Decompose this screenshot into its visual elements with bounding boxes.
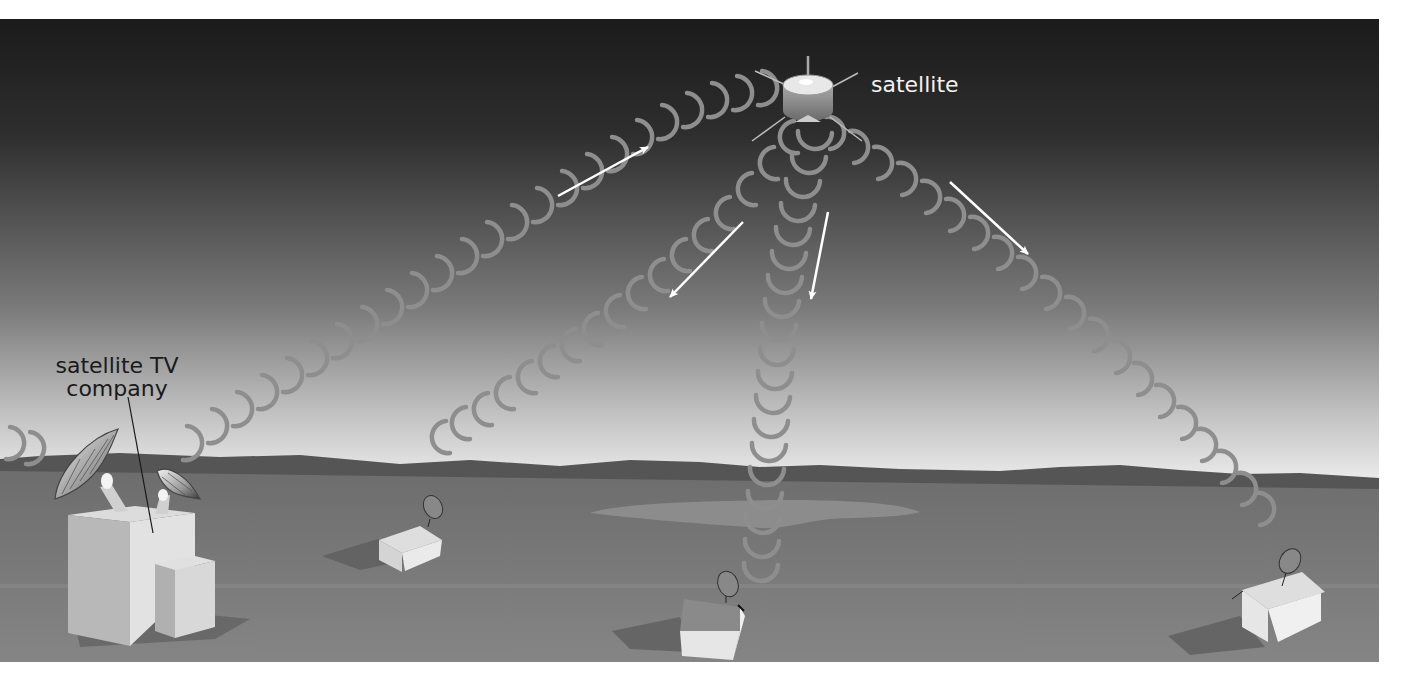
satellite-label: satellite bbox=[871, 73, 959, 96]
satellite-tv-company-label: satellite TV company bbox=[52, 354, 182, 400]
scene-illustration bbox=[0, 19, 1379, 662]
company-label-line2: company bbox=[52, 377, 182, 400]
diagram-canvas: satellite satellite TV company bbox=[0, 0, 1406, 675]
satellite-tv-scene: satellite satellite TV company bbox=[0, 19, 1379, 662]
company-label-line1: satellite TV bbox=[52, 354, 182, 377]
